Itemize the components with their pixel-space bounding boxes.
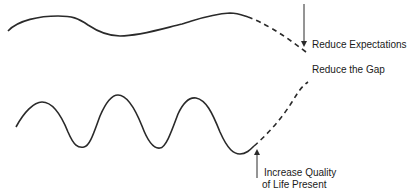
- quality-of-life-curve-solid: [16, 95, 254, 154]
- expectations-curve-solid: [8, 13, 248, 36]
- label-reduce-expectations: Reduce Expectations: [312, 39, 407, 51]
- label-reduce-the-gap: Reduce the Gap: [312, 64, 385, 76]
- quality-of-life-curve-dashed: [254, 82, 308, 146]
- expectations-curve-dashed: [248, 17, 306, 52]
- label-increase-quality-line2: of Life Present: [262, 179, 326, 191]
- label-increase-quality-line1: Increase Quality: [264, 167, 336, 179]
- diagram-canvas: [0, 0, 412, 195]
